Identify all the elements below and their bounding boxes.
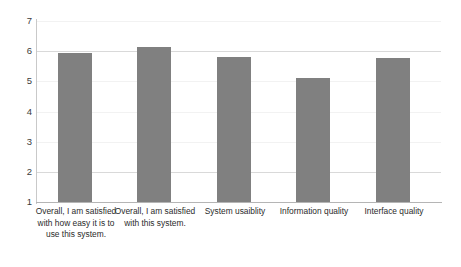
bar-chart: 7 6 5 4 3 2 1 Overall, I am satisfied wi… [0, 0, 461, 267]
y-axis-tick-label: 2 [6, 167, 32, 177]
y-axis-line [36, 19, 37, 204]
x-axis-label-overall-satisfied-ease-of-use: Overall, I am satisfied with how easy it… [34, 206, 118, 241]
bar-overall-satisfied-ease-of-use [58, 53, 92, 202]
plot-area [36, 21, 441, 202]
y-axis-tick-label: 7 [6, 16, 32, 26]
gridline-7 [36, 21, 441, 22]
x-axis-category-labels: Overall, I am satisfied with how easy it… [36, 206, 441, 267]
bar-interface-quality [376, 58, 410, 202]
x-axis-label-overall-satisfied-system: Overall, I am satisfied with this system… [113, 206, 197, 229]
x-axis-line [36, 202, 442, 203]
y-axis-tick-labels: 7 6 5 4 3 2 1 [0, 0, 32, 267]
y-axis-tick-label: 6 [6, 46, 32, 56]
bar-overall-satisfied-system [137, 47, 171, 202]
bar-system-usability [217, 57, 251, 202]
x-axis-label-interface-quality: Interface quality [352, 206, 436, 218]
bar-information-quality [296, 78, 330, 202]
x-axis-label-information-quality: Information quality [272, 206, 356, 218]
y-axis-tick-label: 4 [6, 107, 32, 117]
y-axis-tick-label: 3 [6, 137, 32, 147]
y-axis-tick-label: 1 [6, 197, 32, 207]
gridline-6 [36, 51, 441, 52]
x-axis-label-system-usability: System usaiblity [193, 206, 277, 218]
y-axis-tick-label: 5 [6, 76, 32, 86]
